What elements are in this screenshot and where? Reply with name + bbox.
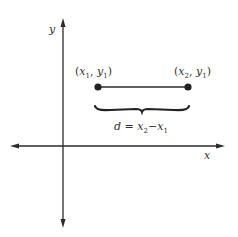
distance-diagram: y x (x1, y1) (x2, y1) d = x2−x1 bbox=[0, 0, 238, 237]
x-axis bbox=[10, 144, 225, 149]
x-axis-left-arrow-icon bbox=[10, 144, 19, 149]
point-1 bbox=[94, 83, 101, 90]
distance-formula: d = x2−x1 bbox=[114, 120, 168, 135]
y-axis bbox=[61, 18, 66, 228]
point-1-label: (x1, y1) bbox=[75, 65, 112, 80]
point-2-label: (x2, y1) bbox=[174, 65, 211, 80]
y-axis-label: y bbox=[48, 23, 56, 36]
x-axis-label: x bbox=[204, 149, 211, 162]
y-axis-down-arrow-icon bbox=[61, 219, 66, 228]
underbrace bbox=[95, 106, 189, 112]
x-axis-right-arrow-icon bbox=[216, 144, 225, 149]
point-2 bbox=[184, 83, 191, 90]
y-axis-up-arrow-icon bbox=[61, 18, 66, 27]
